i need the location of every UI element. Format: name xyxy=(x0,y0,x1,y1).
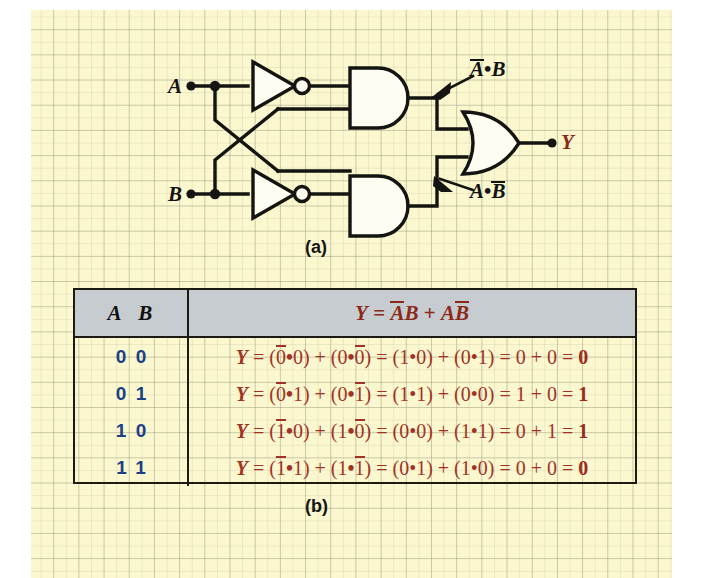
row-3-t1-open: ( xyxy=(269,457,276,479)
row-1-t1-right: 1 xyxy=(293,383,303,405)
row-3-eq1: = xyxy=(253,457,264,479)
formula-term1-a: A xyxy=(390,300,404,326)
row-2-eq1: = xyxy=(253,420,264,442)
row-3-eq4: = xyxy=(562,457,573,479)
table-row: 10 Y = (1•0) + (1•0) = (0•0) + (1•1) = 0… xyxy=(75,412,635,449)
row-3-t1-left: 1 xyxy=(276,456,286,480)
row-0-t4: (0•1) xyxy=(454,346,494,368)
table-row: 01 Y = (0•1) + (0•1) = (1•1) + (0•0) = 1… xyxy=(75,375,635,412)
row-0-plus2: + xyxy=(438,346,449,368)
annotation-bottom-term1: A xyxy=(470,179,484,203)
row-3-s1: 0 xyxy=(516,457,526,479)
row-0-t1-open: ( xyxy=(269,346,276,368)
row-3-t2-open: ( xyxy=(331,457,338,479)
or-gate-output xyxy=(463,112,519,174)
row-0-t2-dot: • xyxy=(348,346,355,368)
header-cell-formula: Y = AB + AB xyxy=(188,290,635,337)
formula-term2-b: B xyxy=(455,300,469,326)
row-3-t2-left: 1 xyxy=(338,457,348,479)
row-1-plus1: + xyxy=(315,383,326,405)
row-1-t2-open: ( xyxy=(331,383,338,405)
row-2-eq3: = xyxy=(499,420,510,442)
annotation-top-term1: A xyxy=(470,58,484,80)
wire-andtop-to-or xyxy=(408,98,467,129)
row-2-t1-left: 1 xyxy=(276,419,286,443)
row-0-t1-right: 0 xyxy=(293,346,303,368)
row-1-eq3: = xyxy=(499,383,510,405)
row-3-a: 1 xyxy=(116,457,135,478)
row-2-plus3: + xyxy=(531,420,542,442)
row-0-a: 0 xyxy=(116,346,136,367)
row-0-s2: 0 xyxy=(547,346,557,368)
row-1-s1: 1 xyxy=(516,383,526,405)
row-0-t2-close: ) xyxy=(365,346,372,368)
header-col-a: A xyxy=(108,301,124,325)
inverter-a-triangle xyxy=(253,62,295,110)
row-2-plus2: + xyxy=(438,420,449,442)
row-1-eq2: = xyxy=(376,383,387,405)
row-3-eq2: = xyxy=(376,457,387,479)
row-1-eq1: = xyxy=(253,383,264,405)
formula-term2-a: A xyxy=(441,301,455,325)
row-0-eq3: = xyxy=(499,346,510,368)
header-col-b: B xyxy=(138,301,154,325)
row-1-inputs: 01 xyxy=(75,375,188,412)
row-1-t1-open: ( xyxy=(269,383,276,405)
row-2-eq4: = xyxy=(562,420,573,442)
row-3-t2-right: 1 xyxy=(355,456,365,480)
junction-dot-b xyxy=(210,189,220,199)
annotation-top-label: A•B xyxy=(470,58,505,80)
row-1-s2: 0 xyxy=(547,383,557,405)
table-row: 00 Y = (0•0) + (0•0) = (1•0) + (0•1) = 0… xyxy=(75,337,635,375)
terminal-dot-y xyxy=(547,138,556,147)
row-1-plus2: + xyxy=(438,383,449,405)
table-row: 11 Y = (1•1) + (1•1) = (0•1) + (1•0) = 0… xyxy=(75,449,635,486)
row-1-a: 0 xyxy=(116,383,136,404)
row-3-t3: (0•1) xyxy=(393,457,433,479)
row-3-plus2: + xyxy=(438,457,449,479)
row-0-b: 0 xyxy=(136,346,156,367)
formula-equals: = xyxy=(373,301,385,325)
row-3-plus3: + xyxy=(531,457,542,479)
row-0-t1-left: 0 xyxy=(276,345,286,369)
row-1-y: Y xyxy=(236,383,248,405)
annotation-bottom-term2: B xyxy=(491,180,505,202)
row-0-eq2: = xyxy=(376,346,387,368)
row-2-y: Y xyxy=(236,420,248,442)
output-y-label: Y xyxy=(561,132,574,153)
row-1-t2-right: 1 xyxy=(355,382,365,406)
row-3-s2: 0 xyxy=(547,457,557,479)
row-3-expression: Y = (1•1) + (1•1) = (0•1) + (1•0) = 0 + … xyxy=(188,449,635,486)
table-header-row: A B Y = AB + AB xyxy=(75,290,635,337)
row-3-t1-close: ) xyxy=(303,457,310,479)
figure-page: A B Y A•B A•B (a) A B Y = AB + AB 00 Y =… xyxy=(0,0,704,578)
row-1-t1-dot: • xyxy=(286,383,293,405)
and-gate-bottom xyxy=(350,176,408,236)
row-0-result: 0 xyxy=(578,346,588,368)
row-2-t2-dot: • xyxy=(348,420,355,442)
row-3-result: 0 xyxy=(578,457,588,479)
inverter-b-triangle xyxy=(253,170,295,218)
row-1-plus3: + xyxy=(531,383,542,405)
terminal-dot-b xyxy=(186,189,195,198)
truth-table: A B Y = AB + AB 00 Y = (0•0) + (0•0) = (… xyxy=(73,288,637,484)
row-0-t2-right: 0 xyxy=(355,345,365,369)
row-0-y: Y xyxy=(236,346,248,368)
row-3-plus1: + xyxy=(315,457,326,479)
row-0-t3: (1•0) xyxy=(393,346,433,368)
row-2-a: 1 xyxy=(116,420,136,441)
row-3-t2-close: ) xyxy=(365,457,372,479)
row-1-t4: (0•0) xyxy=(454,383,494,405)
row-3-eq3: = xyxy=(499,457,510,479)
row-0-t1-close: ) xyxy=(303,346,310,368)
annotation-bottom-label: A•B xyxy=(470,180,505,202)
row-1-result: 1 xyxy=(578,383,588,405)
row-1-expression: Y = (0•1) + (0•1) = (1•1) + (0•0) = 1 + … xyxy=(188,375,635,412)
row-1-t2-left: 0 xyxy=(338,383,348,405)
row-0-t1-dot: • xyxy=(286,346,293,368)
row-2-result: 1 xyxy=(578,420,588,442)
row-1-t3: (1•1) xyxy=(393,383,433,405)
row-2-eq2: = xyxy=(376,420,387,442)
formula-term1-b: B xyxy=(404,301,418,325)
row-0-plus1: + xyxy=(315,346,326,368)
